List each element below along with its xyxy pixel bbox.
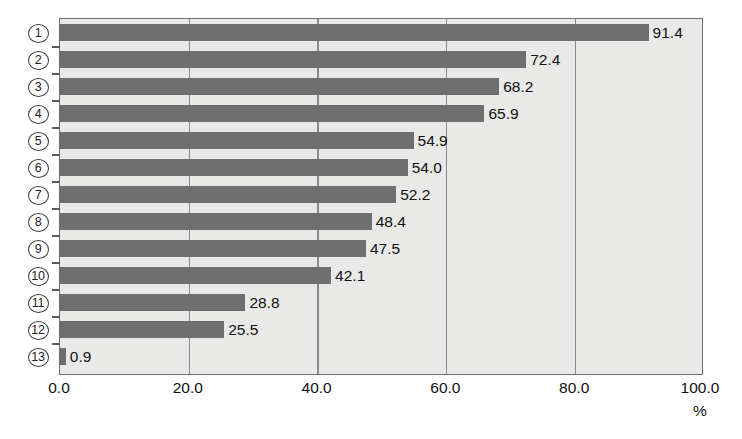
y-axis-tick — [52, 208, 60, 210]
circled-number: 5 — [28, 132, 49, 151]
bar-value-label: 68.2 — [499, 78, 533, 95]
bar — [60, 78, 499, 95]
x-tick-label: 0.0 — [48, 379, 70, 397]
bars-layer: 91.4 72.4 68.2 65.9 54.9 54.0 52.2 48.4 … — [60, 19, 702, 374]
axis-unit-label: % — [693, 402, 707, 420]
bar — [60, 24, 649, 41]
y-axis-tick — [52, 262, 60, 264]
circled-number: 9 — [28, 240, 49, 259]
bar-value-label: 72.4 — [526, 51, 560, 68]
bar-value-label: 28.8 — [245, 294, 279, 311]
circled-number: 10 — [28, 267, 49, 286]
bar-value-label: 42.1 — [331, 267, 365, 284]
category-label: 7 — [20, 185, 56, 206]
bar — [60, 321, 224, 338]
circled-number: 6 — [28, 159, 49, 178]
y-axis-tick — [52, 73, 60, 75]
y-axis-tick — [52, 316, 60, 318]
bar-value-label: 0.9 — [66, 348, 92, 365]
circled-number: 3 — [28, 78, 49, 97]
bar-value-label: 65.9 — [484, 105, 518, 122]
bar-value-label: 54.0 — [408, 159, 442, 176]
bar — [60, 132, 414, 149]
category-label: 4 — [20, 104, 56, 125]
bar — [60, 267, 331, 284]
x-axis-labels: 0.0 20.0 40.0 60.0 80.0 100.0 — [0, 379, 742, 405]
bar-value-label: 47.5 — [366, 240, 400, 257]
bar-value-label: 54.9 — [414, 132, 448, 149]
circled-number: 13 — [28, 348, 49, 367]
y-axis-tick — [52, 289, 60, 291]
category-label: 1 — [20, 23, 56, 44]
bar — [60, 51, 526, 68]
circled-number: 8 — [28, 213, 49, 232]
y-axis-tick — [52, 46, 60, 48]
circled-number: 4 — [28, 105, 49, 124]
bar-chart: 1 2 3 4 5 6 7 8 9 10 11 12 13 — [0, 0, 742, 439]
bar-value-label: 48.4 — [372, 213, 406, 230]
category-label: 6 — [20, 158, 56, 179]
circled-number: 2 — [28, 51, 49, 70]
bar-value-label: 52.2 — [396, 186, 430, 203]
bar — [60, 159, 408, 176]
bar — [60, 240, 366, 257]
category-label: 2 — [20, 50, 56, 71]
bar — [60, 294, 245, 311]
y-axis-tick — [52, 181, 60, 183]
category-label: 5 — [20, 131, 56, 152]
circled-number: 12 — [28, 321, 49, 340]
category-label: 12 — [20, 320, 56, 341]
bar — [60, 186, 396, 203]
x-tick-label: 40.0 — [302, 379, 332, 397]
category-label: 10 — [20, 266, 56, 287]
category-label: 3 — [20, 77, 56, 98]
circled-number: 7 — [28, 186, 49, 205]
category-label: 9 — [20, 239, 56, 260]
x-tick-label: 20.0 — [173, 379, 203, 397]
y-axis-tick — [52, 127, 60, 129]
category-label: 13 — [20, 347, 56, 368]
category-label: 11 — [20, 293, 56, 314]
bar — [60, 105, 484, 122]
circled-number: 1 — [28, 24, 49, 43]
x-tick-label: 100.0 — [681, 379, 720, 397]
bar-value-label: 91.4 — [649, 24, 683, 41]
bar — [60, 213, 372, 230]
plot-area: 91.4 72.4 68.2 65.9 54.9 54.0 52.2 48.4 … — [59, 18, 703, 375]
y-axis-tick — [52, 235, 60, 237]
y-axis-tick — [52, 100, 60, 102]
x-tick-label: 60.0 — [430, 379, 460, 397]
category-label: 8 — [20, 212, 56, 233]
y-axis-tick — [52, 154, 60, 156]
circled-number: 11 — [28, 294, 49, 313]
x-tick-label: 80.0 — [559, 379, 589, 397]
category-axis-labels: 1 2 3 4 5 6 7 8 9 10 11 12 13 — [20, 18, 56, 375]
y-axis-tick — [52, 343, 60, 345]
bar-value-label: 25.5 — [224, 321, 258, 338]
